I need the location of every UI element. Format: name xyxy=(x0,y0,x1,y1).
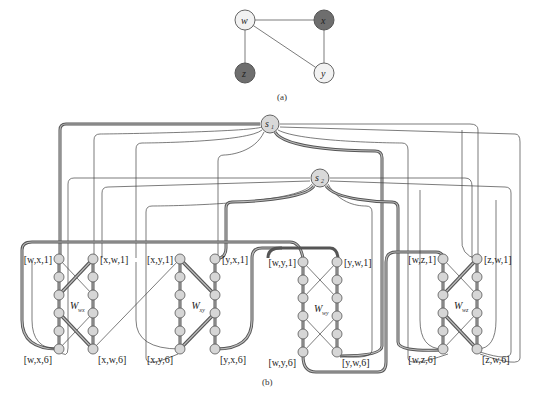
label-wz-top-right: [z,w,1] xyxy=(484,254,512,265)
gadget-wx-node-l2 xyxy=(54,272,64,282)
source-s1-label: s xyxy=(265,118,269,129)
gadget-wx-node-r5 xyxy=(88,326,98,336)
gadget-wz-node-r1 xyxy=(472,254,482,264)
label-xy-top-left: [x,y,1] xyxy=(147,254,173,265)
gadget-xy-node-l5 xyxy=(175,326,185,336)
label-xy-bottom-right: [y,x,6] xyxy=(220,354,246,365)
gadget-wy-node-l5 xyxy=(298,329,308,339)
label-wy-bottom-right: [y,w,6] xyxy=(342,357,370,368)
gadget-wx-node-r1 xyxy=(88,254,98,264)
gadget-wz-node-r4 xyxy=(472,308,482,318)
gadget-xy-node-l4 xyxy=(175,308,185,318)
label-xy-bottom-left: [x,y,6] xyxy=(147,354,173,365)
label-wx-bottom-right: [x,w,6] xyxy=(98,354,126,365)
gadget-wz-node-r2 xyxy=(472,272,482,282)
gadget-xy-node-l2 xyxy=(175,272,185,282)
gadget-xy-node-l3 xyxy=(175,290,185,300)
vertex-w-label: w xyxy=(241,15,248,26)
gadget-wy-title-sub: wy xyxy=(322,310,329,316)
gadget-xy-node-l6 xyxy=(175,344,185,354)
gadget-xy-node-r3 xyxy=(210,290,220,300)
gadget-wx-node-l5 xyxy=(54,326,64,336)
gadget-xy-node-r1 xyxy=(210,254,220,264)
label-wz-bottom-right: [z,w,6] xyxy=(482,354,510,365)
gadget-wy-node-l3 xyxy=(298,293,308,303)
gadget-wy-node-l1 xyxy=(298,257,308,267)
source-s1-node xyxy=(261,115,279,133)
gadget-xy-title-sub: xy xyxy=(199,307,206,313)
gadget-wy-node-l6 xyxy=(298,347,308,357)
source-s2-label: s xyxy=(315,172,319,183)
label-xy-top-right: [y,x,1] xyxy=(222,254,248,265)
gadget-wy-node-r3 xyxy=(332,293,342,303)
caption-a: (a) xyxy=(277,92,287,102)
gadget-wz-node-r5 xyxy=(472,326,482,336)
vertex-x-label: x xyxy=(320,15,326,26)
source-s2-sub: 2 xyxy=(321,178,324,184)
gadget-xy-node-r6 xyxy=(210,344,220,354)
gadget-wx-node-r6 xyxy=(88,344,98,354)
gadget-wx-node-l4 xyxy=(54,308,64,318)
gadget-wy-node-l4 xyxy=(298,311,308,321)
source-s1-sub: 1 xyxy=(271,124,274,130)
gadget-wx-node-l6 xyxy=(54,344,64,354)
gadget-wx-title-sub: wx xyxy=(78,307,85,313)
gadget-wx-node-l3 xyxy=(54,290,64,300)
vertex-z-label: z xyxy=(241,68,246,79)
diagram-canvas: w x z y (a) xyxy=(0,0,533,398)
gadget-wx-node-r4 xyxy=(88,308,98,318)
gadget-wy-node-l2 xyxy=(298,275,308,285)
gadget-wz-node-l6 xyxy=(438,344,448,354)
gadgets: [w,x,1][x,w,1][w,x,6][x,w,6]Wwx[x,y,1][y… xyxy=(24,254,512,368)
graph-a: w x z y (a) xyxy=(235,10,334,102)
source-s1: s 1 xyxy=(261,115,279,133)
gadget-wz-node-r3 xyxy=(472,290,482,300)
gadget-wy-node-r5 xyxy=(332,329,342,339)
label-wy-top-left: [w,y,1] xyxy=(268,257,296,268)
source-s2: s 2 xyxy=(311,169,329,187)
vertex-y-label: y xyxy=(320,68,326,79)
gadget-wx-node-l1 xyxy=(54,254,64,264)
gadget-wz-node-l1 xyxy=(438,254,448,264)
gadget-wz-node-l5 xyxy=(438,326,448,336)
label-wy-bottom-left: [w,y,6] xyxy=(268,357,296,368)
edge-w-y xyxy=(245,20,324,73)
gadget-wy: [w,y,1][y,w,1][w,y,6][y,w,6]Wwy xyxy=(268,257,371,368)
gadget-wz-node-l3 xyxy=(438,290,448,300)
label-wz-top-left: [w,z,1] xyxy=(408,254,436,265)
gadget-wy-node-r4 xyxy=(332,311,342,321)
gadget-wx-node-r2 xyxy=(88,272,98,282)
gadget-xy-node-r2 xyxy=(210,272,220,282)
label-wx-top-left: [w,x,1] xyxy=(24,254,52,265)
label-wx-bottom-left: [w,x,6] xyxy=(24,354,52,365)
gadget-wx-node-r3 xyxy=(88,290,98,300)
caption-b: (b) xyxy=(262,377,273,387)
source-s2-node xyxy=(311,169,329,187)
label-wz-bottom-left: [w,z,6] xyxy=(408,354,436,365)
gadget-wz-title-sub: wz xyxy=(462,307,469,313)
gadget-wx: [w,x,1][x,w,1][w,x,6][x,w,6]Wwx xyxy=(24,254,128,365)
gadget-xy-node-r4 xyxy=(210,308,220,318)
gadget-xy-node-r5 xyxy=(210,326,220,336)
gadget-wy-node-r6 xyxy=(332,347,342,357)
label-wy-top-right: [y,w,1] xyxy=(344,257,372,268)
gadget-wz-node-l2 xyxy=(438,272,448,282)
label-wx-top-right: [x,w,1] xyxy=(100,254,128,265)
gadget-wz-node-l4 xyxy=(438,308,448,318)
gadget-wy-node-r2 xyxy=(332,275,342,285)
gadget-wz-node-r6 xyxy=(472,344,482,354)
gadget-xy-node-l1 xyxy=(175,254,185,264)
gadget-wy-node-r1 xyxy=(332,257,342,267)
figure: w x z y (a) xyxy=(0,0,533,398)
